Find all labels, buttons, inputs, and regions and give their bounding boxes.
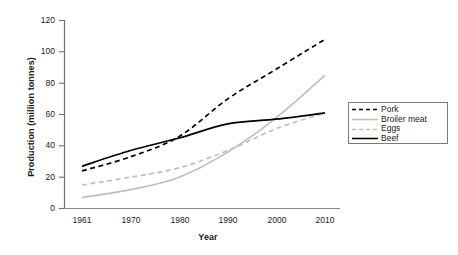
legend-label-beef: Beef (378, 134, 399, 144)
x-tick-label-2000: 2000 (257, 215, 297, 225)
legend-item-beef: Beef (352, 134, 447, 144)
legend-swatch-eggs (352, 125, 378, 134)
x-tick-label-2010: 2010 (305, 215, 345, 225)
series-line-eggs (82, 113, 325, 185)
legend-item-eggs: Eggs (352, 124, 447, 134)
x-tick-label-1961: 1961 (62, 215, 102, 225)
x-axis-title: Year (168, 232, 248, 242)
y-tick-label-120: 120 (25, 15, 55, 25)
y-tick-marks (59, 21, 65, 209)
legend-swatch-beef (352, 134, 378, 143)
legend-swatch-pork (352, 105, 378, 114)
chart-figure: 120 100 80 60 40 20 0 1961 1970 1980 199… (0, 0, 458, 255)
x-tick-label-1990: 1990 (208, 215, 248, 225)
x-tick-label-1980: 1980 (160, 215, 200, 225)
series-line-pork (82, 39, 325, 171)
x-tick-label-1970: 1970 (111, 215, 151, 225)
y-tick-label-0: 0 (25, 203, 55, 213)
data-series-group (82, 39, 325, 197)
y-axis-title: Production (million tonnes) (26, 30, 36, 205)
legend-swatch-broiler-meat (352, 115, 378, 124)
chart-legend: Pork Broiler meat Eggs Beef (348, 102, 448, 144)
series-line-beef (82, 113, 325, 166)
